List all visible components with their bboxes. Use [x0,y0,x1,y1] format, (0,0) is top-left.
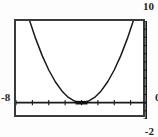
y-min-label: -2 [145,126,154,137]
trace-cursor-marker[interactable] [76,101,88,105]
y-axis [144,21,147,119]
parabola-curve [16,21,147,103]
plot-canvas [16,21,147,119]
y-max-label: 10 [143,1,154,12]
graph-screen: 10 -2 -8 0 [0,0,158,137]
plot-area[interactable] [14,19,145,117]
x-max-label: 0 [155,92,158,103]
x-min-label: -8 [1,92,10,103]
